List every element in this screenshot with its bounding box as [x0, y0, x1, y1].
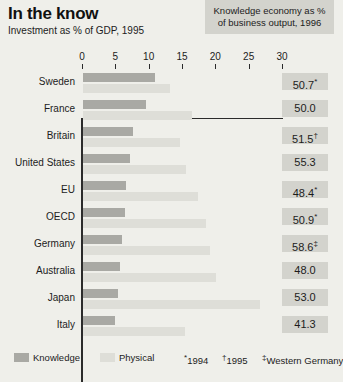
- x-axis-tick: [115, 64, 116, 69]
- category-label: Italy: [0, 319, 75, 330]
- side-column-value: 48.0: [282, 262, 328, 279]
- bar-knowledge: [83, 100, 146, 109]
- side-column-number: 53.0: [294, 291, 315, 303]
- x-axis-tick: [215, 64, 216, 69]
- footnote-1994: *1994: [184, 353, 208, 366]
- legend-item-knowledge: Knowledge: [14, 352, 80, 363]
- x-axis-tick: [182, 64, 183, 69]
- side-column-number: 50.9: [293, 214, 314, 226]
- chart-row: Sweden50.7*: [0, 71, 334, 98]
- x-axis-tick-label: 25: [243, 51, 254, 62]
- bar-physical: [83, 327, 185, 336]
- x-axis-tick: [249, 64, 250, 69]
- bar-rows: Sweden50.7*France50.0Britain51.5†United …: [0, 71, 334, 341]
- bar-knowledge: [83, 127, 133, 136]
- bar-group: [83, 208, 283, 231]
- bar-knowledge: [83, 235, 122, 244]
- bar-knowledge: [83, 73, 155, 82]
- bar-group: [83, 73, 283, 96]
- side-column-number: 55.3: [294, 156, 315, 168]
- side-column-number: 50.7: [293, 79, 314, 91]
- side-column-mark: *: [314, 77, 317, 86]
- side-column-value: 53.0: [282, 289, 328, 306]
- side-column-mark: *: [314, 185, 317, 194]
- footnote-western-germany: ‡Western Germany: [262, 353, 343, 366]
- x-axis-tick-label: 20: [210, 51, 221, 62]
- side-column-value: 50.7*: [282, 73, 328, 90]
- page-subtitle: Investment as % of GDP, 1995: [8, 24, 208, 37]
- legend-swatch-knowledge: [14, 353, 29, 362]
- x-axis-tick-label: 30: [276, 51, 287, 62]
- bar-physical: [83, 219, 206, 228]
- side-column-number: 41.3: [294, 318, 315, 330]
- legend-item-physical: Physical: [100, 352, 154, 363]
- category-label: France: [0, 103, 75, 114]
- bar-group: [83, 262, 283, 285]
- chart-legend: Knowledge Physical *1994 †1995 ‡Western …: [0, 350, 334, 366]
- category-label: Germany: [0, 238, 75, 249]
- bar-knowledge: [83, 262, 120, 271]
- chart-row: United States55.3: [0, 152, 334, 179]
- bar-knowledge: [83, 316, 115, 325]
- bar-group: [83, 154, 283, 177]
- page-title: In the know: [8, 4, 208, 23]
- footnote-western-germany-text: Western Germany: [266, 355, 343, 366]
- legend-swatch-physical: [100, 353, 115, 362]
- bar-group: [83, 127, 283, 150]
- x-axis-tick-label: 10: [143, 51, 154, 62]
- chart-row: Italy41.3: [0, 314, 334, 341]
- bar-group: [83, 100, 283, 123]
- bar-knowledge: [83, 154, 130, 163]
- bar-physical: [83, 192, 198, 201]
- side-column-value: 50.0: [282, 100, 328, 117]
- x-axis-tick-label: 5: [113, 51, 119, 62]
- bar-physical: [83, 165, 186, 174]
- category-label: Britain: [0, 130, 75, 141]
- side-column-mark: ‡: [313, 239, 317, 248]
- footnote-1995-text: 1995: [226, 355, 247, 366]
- category-label: United States: [0, 157, 75, 168]
- side-column-value: 50.9*: [282, 208, 328, 225]
- x-axis-tick-label: 15: [176, 51, 187, 62]
- side-column-mark: *: [314, 212, 317, 221]
- side-column-value: 55.3: [282, 154, 328, 171]
- category-label: Japan: [0, 292, 75, 303]
- bar-physical: [83, 273, 216, 282]
- side-column-value: 51.5†: [282, 127, 328, 144]
- chart-row: Britain51.5†: [0, 125, 334, 152]
- bar-group: [83, 235, 283, 258]
- category-label: Sweden: [0, 76, 75, 87]
- bar-group: [83, 316, 283, 339]
- side-column-value: 58.6‡: [282, 235, 328, 252]
- footnote-1995: †1995: [222, 353, 248, 366]
- side-column-header-line1: Knowledge economy as %: [214, 5, 326, 17]
- chart-row: Germany58.6‡: [0, 233, 334, 260]
- bar-physical: [83, 300, 260, 309]
- side-column-header: Knowledge economy as % of business outpu…: [205, 0, 334, 34]
- side-column-value: 41.3: [282, 316, 328, 333]
- legend-label-physical: Physical: [119, 352, 154, 363]
- chart-row: Australia48.0: [0, 260, 334, 287]
- bar-physical: [83, 246, 210, 255]
- bar-physical: [83, 138, 180, 147]
- side-column-mark: †: [313, 131, 317, 140]
- category-label: Australia: [0, 265, 75, 276]
- bar-knowledge: [83, 181, 126, 190]
- side-column-number: 48.0: [294, 264, 315, 276]
- side-column-number: 48.4: [293, 187, 314, 199]
- category-label: OECD: [0, 211, 75, 222]
- bar-group: [83, 181, 283, 204]
- chart-plot-area: 051015202530 Sweden50.7*France50.0Britai…: [0, 50, 334, 335]
- bar-physical: [83, 111, 192, 120]
- bar-physical: [83, 84, 170, 93]
- chart-header: In the know Investment as % of GDP, 1995: [8, 4, 208, 37]
- category-label: EU: [0, 184, 75, 195]
- x-axis-tick: [149, 64, 150, 69]
- x-axis-tick: [282, 64, 283, 69]
- side-column-header-line2: of business output, 1996: [218, 17, 322, 29]
- footnote-1994-text: 1994: [187, 355, 208, 366]
- side-column-number: 50.0: [294, 102, 315, 114]
- chart-row: EU48.4*: [0, 179, 334, 206]
- chart-row: OECD50.9*: [0, 206, 334, 233]
